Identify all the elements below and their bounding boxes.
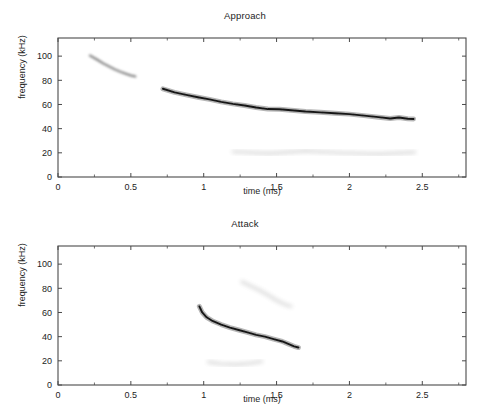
svg-text:100: 100 <box>37 51 52 61</box>
svg-text:40: 40 <box>42 332 52 342</box>
svg-text:60: 60 <box>42 100 52 110</box>
plot-area-attack: 00.511.522.5020406080100 <box>0 208 490 416</box>
svg-text:1.5: 1.5 <box>270 182 283 192</box>
svg-text:20: 20 <box>42 356 52 366</box>
svg-text:1: 1 <box>201 390 206 400</box>
svg-text:0: 0 <box>55 182 60 192</box>
svg-text:40: 40 <box>42 124 52 134</box>
svg-text:80: 80 <box>42 284 52 294</box>
svg-text:80: 80 <box>42 76 52 86</box>
svg-text:100: 100 <box>37 259 52 269</box>
svg-text:20: 20 <box>42 148 52 158</box>
svg-text:2: 2 <box>347 390 352 400</box>
trace-core <box>199 306 298 347</box>
svg-text:0: 0 <box>55 390 60 400</box>
svg-text:0: 0 <box>47 172 52 182</box>
svg-text:2: 2 <box>347 182 352 192</box>
svg-text:1.5: 1.5 <box>270 390 283 400</box>
svg-text:60: 60 <box>42 308 52 318</box>
svg-text:1: 1 <box>201 182 206 192</box>
trace-halo <box>163 89 414 119</box>
svg-text:0.5: 0.5 <box>125 182 138 192</box>
svg-text:0: 0 <box>47 380 52 390</box>
svg-text:2.5: 2.5 <box>416 390 429 400</box>
panel-attack: Attack frequency (kHz) time (ms) 00.511.… <box>0 208 490 416</box>
spectrogram-figure: Approach frequency (kHz) time (ms) 00.51… <box>0 0 490 417</box>
plot-area-approach: 00.511.522.5020406080100 <box>0 0 490 208</box>
svg-text:2.5: 2.5 <box>416 182 429 192</box>
svg-text:0.5: 0.5 <box>125 390 138 400</box>
panel-approach: Approach frequency (kHz) time (ms) 00.51… <box>0 0 490 208</box>
